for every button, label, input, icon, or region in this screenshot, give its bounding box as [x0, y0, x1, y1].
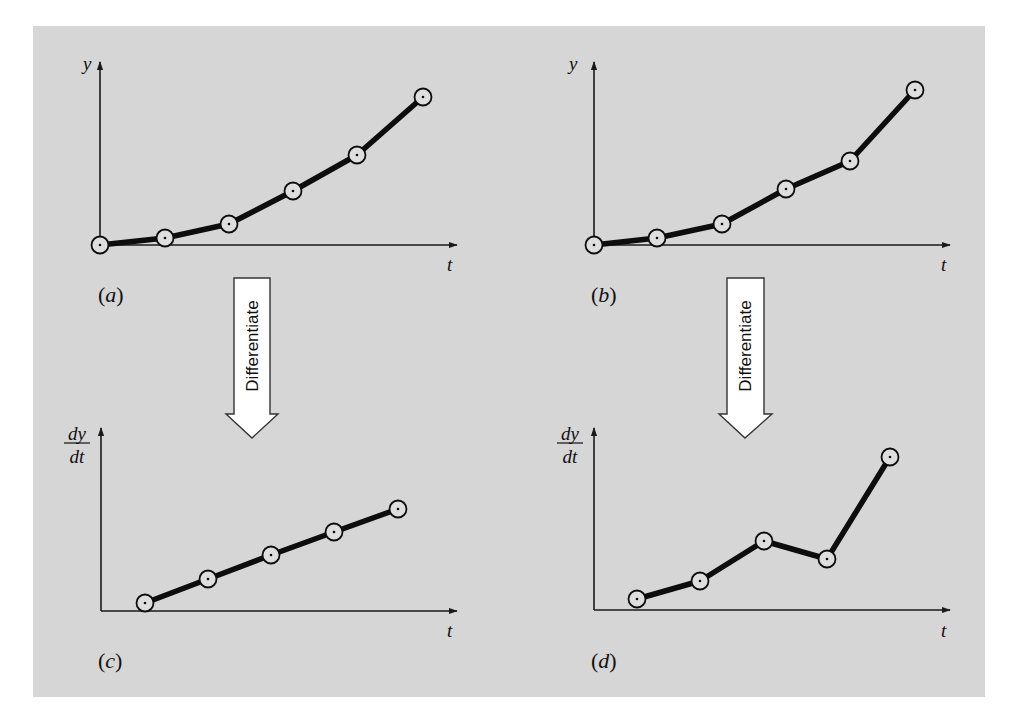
x-axis-label: t — [941, 254, 947, 275]
arrow-label: Differentiate — [736, 300, 755, 391]
panel-caption: (b) — [591, 282, 617, 307]
differentiate-arrow-right: Differentiate — [719, 278, 772, 438]
differentiate-arrow-left: Differentiate — [226, 278, 278, 438]
panel-caption: (d) — [591, 648, 617, 673]
x-axis-label: t — [941, 620, 947, 641]
svg-text:dt: dt — [563, 446, 579, 467]
figure-background — [33, 26, 985, 697]
x-axis-label: t — [447, 254, 453, 275]
svg-text:dy: dy — [68, 423, 87, 444]
y-axis-label: y — [567, 53, 578, 74]
svg-text:dy: dy — [561, 423, 580, 444]
x-axis-label: t — [447, 620, 453, 641]
panel-caption: (a) — [98, 282, 124, 307]
arrow-label: Differentiate — [243, 300, 262, 391]
differentiation-figure: y t (a) y t (b) — [0, 0, 1022, 714]
svg-text:dt: dt — [70, 446, 86, 467]
panel-caption: (c) — [98, 648, 122, 673]
y-axis-label: y — [81, 53, 92, 74]
